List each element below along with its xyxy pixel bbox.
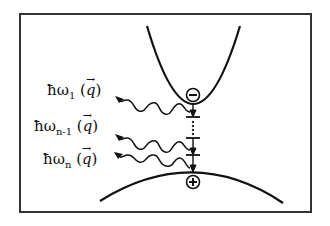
paren-close: ) [92,117,98,135]
phonon-n-1-wave [115,134,190,152]
phonon-subscript: n-1 [56,126,72,137]
phonon-1-wave [115,96,190,114]
ellipsis-dots-icon [192,121,194,135]
paren-open: ( [71,150,82,168]
vector-arrow-icon: → [83,110,92,121]
phonon-n-1-label: ħωn-1 (→q) [34,119,98,134]
hole-icon [187,176,200,189]
hbar-omega: ħω [43,150,65,168]
hbar-omega: ħω [47,81,69,99]
phonon-n-label: ħωn (→q) [43,152,97,167]
hbar-omega: ħω [34,117,56,135]
phonon-subscript: 1 [69,90,75,101]
phonon-1-label: ħω1 (→q) [47,83,101,98]
paren-open: ( [72,117,83,135]
phonon-subscript: n [65,159,71,170]
electron-icon [187,89,200,102]
relaxation-path [186,103,200,172]
band-diagram [0,0,330,226]
vector-arrow-icon: → [86,74,95,85]
paren-open: ( [75,81,86,99]
paren-close: ) [96,81,102,99]
phonon-n-arrowhead-icon [114,152,123,159]
phonon-n-wave [114,152,190,168]
vector-arrow-icon: → [82,143,91,154]
paren-close: ) [92,150,98,168]
